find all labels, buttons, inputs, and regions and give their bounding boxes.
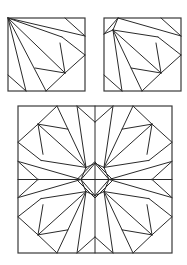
pattern-line [81, 180, 86, 192]
pattern-line [133, 235, 152, 253]
assembled-quilt-block [18, 106, 172, 253]
pattern-line [8, 75, 26, 91]
pattern-line [77, 106, 95, 122]
pattern-line [18, 142, 41, 160]
block-full-corner [8, 18, 85, 91]
pattern-line [95, 237, 113, 253]
pattern-line [152, 124, 172, 142]
pattern-line [104, 180, 109, 192]
pattern-line [161, 55, 181, 73]
pattern-line [147, 124, 152, 154]
pattern-line [95, 180, 109, 196]
pattern-line [62, 37, 85, 55]
pattern-line [113, 18, 118, 30]
pattern-line [158, 37, 181, 55]
pattern-line [81, 163, 95, 179]
pattern-line [95, 163, 109, 179]
pattern-line [104, 18, 118, 34]
pattern-line [156, 43, 161, 73]
pattern-line [18, 124, 38, 142]
pattern-line [65, 55, 85, 73]
pattern-line [18, 217, 38, 235]
pattern-line [133, 106, 152, 124]
pattern-line [104, 75, 122, 91]
pattern-line [77, 237, 95, 253]
pattern-line [149, 142, 172, 160]
pattern-line [142, 73, 161, 91]
pattern-line [95, 106, 113, 122]
pattern-line [38, 235, 57, 253]
pattern-line [38, 205, 43, 235]
panel-frame [104, 18, 181, 91]
pattern-line [18, 199, 41, 217]
pattern-line [152, 217, 172, 235]
pattern-line [8, 18, 65, 73]
pattern-line [147, 205, 152, 235]
pattern-line [46, 73, 65, 91]
pattern-line [38, 124, 43, 154]
pattern-line [38, 106, 57, 124]
pattern-canvas [0, 0, 187, 265]
pattern-line [149, 199, 172, 217]
pattern-line [8, 18, 85, 36]
block-cut-corner [104, 18, 181, 91]
pattern-line [81, 180, 95, 196]
pattern-line [8, 18, 26, 91]
